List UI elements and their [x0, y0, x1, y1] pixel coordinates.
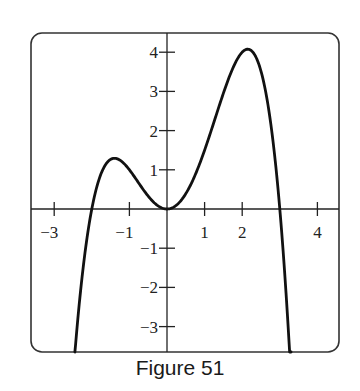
y-tick-label: 1: [150, 161, 159, 180]
y-tick-label: −2: [140, 278, 158, 297]
x-tick-label: 4: [313, 223, 322, 242]
function-curve: [75, 49, 291, 352]
x-tick-label: 1: [200, 223, 209, 242]
x-tick-label: −3: [40, 223, 58, 242]
y-tick-label: −1: [140, 239, 158, 258]
y-tick-label: 4: [150, 43, 159, 62]
y-tick-label: 3: [150, 82, 159, 101]
x-tick-label: 2: [238, 223, 247, 242]
x-tick-label: −1: [115, 223, 133, 242]
y-tick-label: −3: [140, 318, 158, 337]
function-graph: −3−1124−3−2−11234: [0, 0, 360, 391]
figure-caption: Figure 51: [0, 356, 360, 380]
tick-labels: −3−1124−3−2−11234: [40, 43, 322, 336]
y-tick-label: 2: [150, 122, 159, 141]
